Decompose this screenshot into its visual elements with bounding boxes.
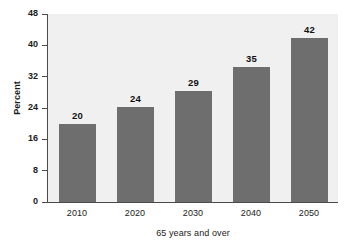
y-tick-mark (42, 76, 47, 77)
y-tick-mark (42, 14, 47, 15)
y-axis-line (47, 14, 48, 203)
x-tick-label: 2040 (222, 208, 280, 218)
y-tick-label: 32 (0, 71, 38, 82)
y-tick-label: 0 (0, 196, 38, 207)
y-tick-mark (42, 139, 47, 140)
bar-value-label: 42 (291, 24, 328, 35)
bar (59, 124, 96, 202)
bar-chart: Percent 081624324048 2024293542 20102020… (0, 0, 350, 249)
bar (233, 67, 270, 202)
y-tick-mark (42, 108, 47, 109)
bar (175, 91, 212, 202)
y-tick-mark (42, 202, 47, 203)
bar (117, 107, 154, 202)
bar-value-label: 29 (175, 77, 212, 88)
y-tick-label: 24 (0, 102, 38, 113)
x-tick-label: 2050 (280, 208, 338, 218)
bar-value-label: 35 (233, 53, 270, 64)
x-tick-label: 2020 (106, 208, 164, 218)
x-axis-title: 65 years and over (48, 228, 338, 238)
x-axis-line (47, 202, 338, 203)
y-tick-label: 8 (0, 165, 38, 176)
x-tick-label: 2030 (164, 208, 222, 218)
bar-value-label: 24 (117, 93, 154, 104)
y-tick-mark (42, 170, 47, 171)
y-tick-label: 40 (0, 39, 38, 50)
y-tick-mark (42, 45, 47, 46)
bar-value-label: 20 (59, 110, 96, 121)
bar (291, 38, 328, 203)
x-tick-label: 2010 (48, 208, 106, 218)
y-tick-label: 48 (0, 8, 38, 19)
y-tick-label: 16 (0, 133, 38, 144)
